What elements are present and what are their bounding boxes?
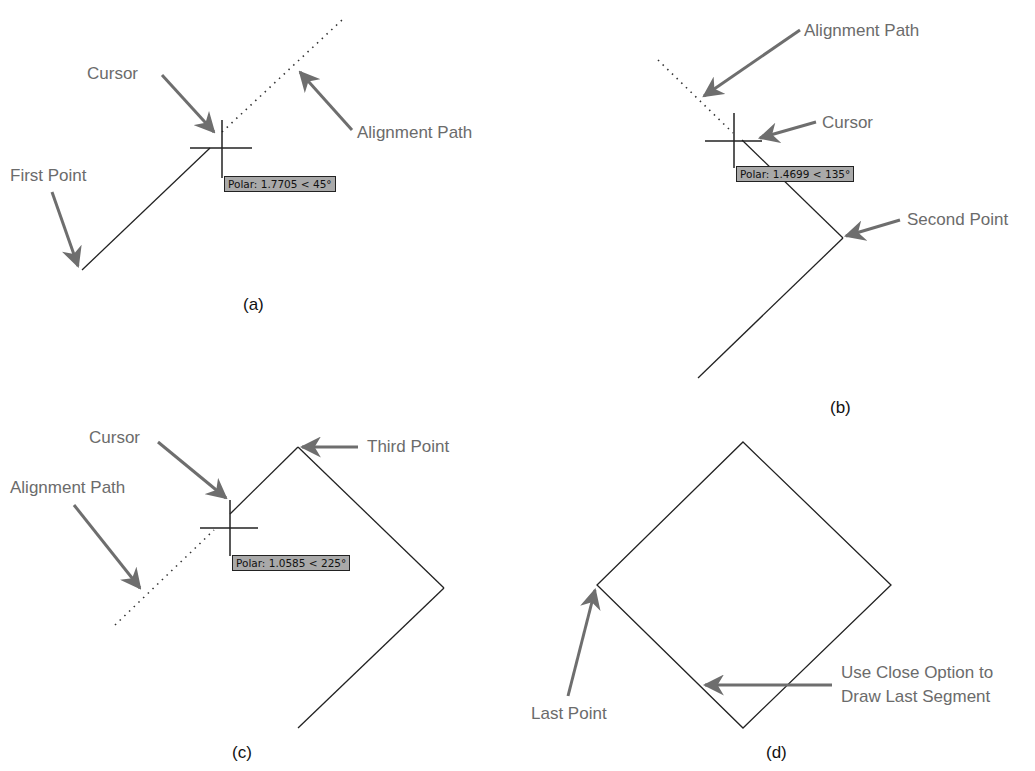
panel-d-close-option-line2: Draw Last Segment — [841, 687, 990, 707]
panel-b-polar-tooltip: Polar: 1.4699 < 135° — [736, 166, 854, 182]
panel-a-alignment-path-label: Alignment Path — [357, 123, 472, 143]
panel-b-cursor-label: Cursor — [822, 113, 873, 133]
panel-c-alignment-path-label: Alignment Path — [10, 478, 125, 498]
diagram-canvas — [0, 0, 1035, 771]
panel-d-drawing — [568, 442, 891, 728]
panel-c-cursor-label: Cursor — [89, 428, 140, 448]
panel-a-first-point-label: First Point — [10, 166, 87, 186]
panel-c-drawing — [74, 442, 444, 728]
panel-b-alignment-path-label: Alignment Path — [804, 21, 919, 41]
panel-a-drawing — [52, 20, 352, 270]
panel-b-caption: (b) — [830, 398, 851, 418]
panel-a-cursor-label: Cursor — [87, 64, 138, 84]
panel-a-caption: (a) — [243, 295, 264, 315]
panel-c-caption: (c) — [232, 743, 252, 763]
panel-b-second-point-label: Second Point — [907, 210, 1008, 230]
panel-a-polar-tooltip: Polar: 1.7705 < 45° — [224, 176, 336, 192]
panel-d-last-point-label: Last Point — [531, 704, 607, 724]
panel-b-drawing — [658, 30, 900, 378]
panel-c-third-point-label: Third Point — [367, 437, 449, 457]
panel-c-polar-tooltip: Polar: 1.0585 < 225° — [232, 555, 350, 571]
panel-d-caption: (d) — [766, 743, 787, 763]
panel-d-close-option-line1: Use Close Option to — [841, 663, 993, 683]
